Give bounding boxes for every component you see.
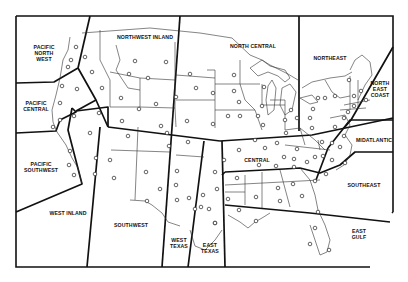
region-label-north-east-coast: NORTH EAST COAST <box>371 80 390 98</box>
region-boundaries <box>16 16 393 267</box>
region-label-northwest-inland: NORTHWEST INLAND <box>117 34 173 40</box>
region-label-west-inland: WEST INLAND <box>49 210 86 216</box>
region-label-east-gulf: EAST GULF <box>352 228 367 240</box>
region-label-northeast: NORTHEAST <box>313 55 346 61</box>
region-label-southeast: SOUTHEAST <box>348 182 381 188</box>
region-label-southwest: SOUTHWEST <box>114 222 148 228</box>
region-label-north-central: NORTH CENTRAL <box>230 43 276 49</box>
map-graphic <box>0 0 408 282</box>
region-label-pacific-north-west: PACIFIC NORTH WEST <box>33 44 54 62</box>
region-label-west-texas: WEST TEXAS <box>170 237 188 249</box>
region-label-east-texas: EAST TEXAS <box>201 242 219 254</box>
region-label-pacific-southwest: PACIFIC SOUTHWEST <box>24 161 58 173</box>
region-label-central: CENTRAL <box>244 157 269 163</box>
region-label-pacific-central: PACIFIC CENTRAL <box>23 100 48 112</box>
region-label-midatlantic: MIDATLANTIC <box>356 137 392 143</box>
forecast-region-map: PACIFIC NORTH WEST NORTHWEST INLAND NORT… <box>0 0 408 282</box>
